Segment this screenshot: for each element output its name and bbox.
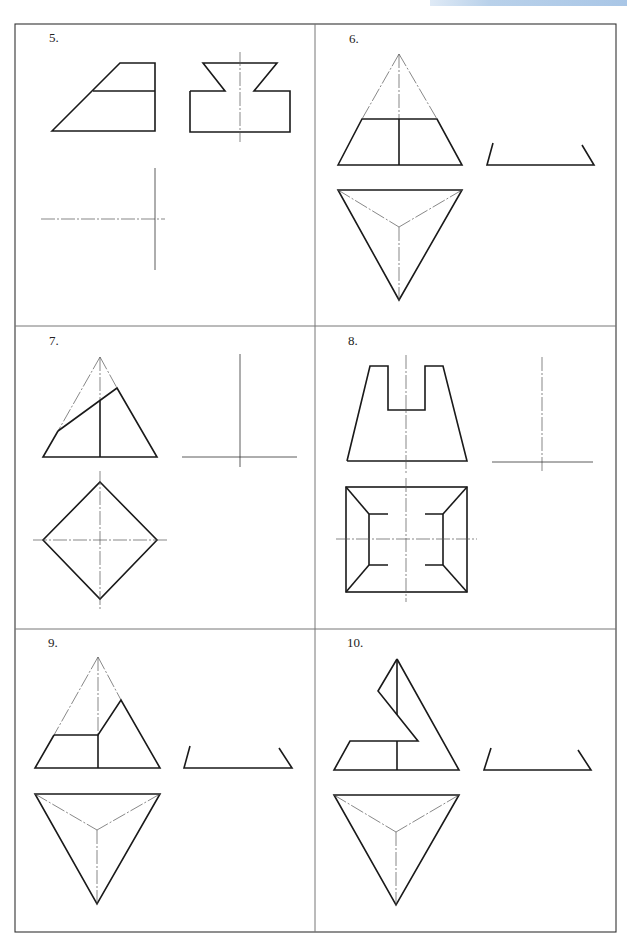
p6-side-view bbox=[487, 143, 594, 165]
worksheet-drawing bbox=[0, 0, 627, 939]
problem-number-6: 6. bbox=[349, 31, 359, 47]
p8-top-view bbox=[346, 487, 467, 592]
problem-number-7: 7. bbox=[49, 333, 59, 349]
p9-side-view bbox=[184, 746, 292, 768]
problem-number-8: 8. bbox=[348, 333, 358, 349]
problem-number-9: 9. bbox=[48, 635, 58, 651]
problem-10-drawing bbox=[334, 659, 591, 905]
p6-top-view bbox=[338, 190, 462, 300]
p8-front-view bbox=[347, 366, 467, 461]
p9-top-view bbox=[35, 794, 160, 904]
problem-number-5: 5. bbox=[49, 30, 59, 46]
problem-8-drawing bbox=[336, 355, 593, 602]
p5-front-view bbox=[52, 63, 155, 131]
p6-front-view bbox=[338, 119, 462, 165]
problem-9-drawing bbox=[35, 657, 292, 904]
problem-number-10: 10. bbox=[347, 635, 363, 651]
problem-5-drawing bbox=[41, 52, 290, 270]
problem-7-drawing bbox=[33, 354, 297, 611]
p10-side-view bbox=[484, 748, 591, 770]
p10-top-view bbox=[334, 795, 459, 905]
problem-6-drawing bbox=[338, 54, 594, 300]
